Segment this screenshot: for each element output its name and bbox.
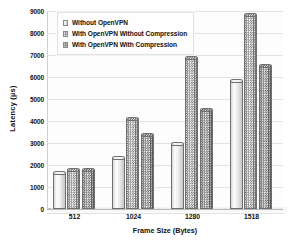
bar-top-cap [230,79,243,83]
y-tick-label: 3000 [16,140,44,147]
bar-top-cap [200,108,213,112]
y-tick-label: 5000 [16,96,44,103]
x-axis-title: Frame Size (Bytes) [47,226,283,235]
y-tick-label: 6000 [16,74,44,81]
bar-top-cap [53,171,66,175]
bar [185,58,198,209]
bar [244,15,257,209]
bar-top-cap [67,168,80,172]
bar-top-cap [141,133,154,137]
x-tick-label: 1280 [163,213,223,220]
bar-top-cap [185,56,198,60]
y-axis-tick-labels: 0100020003000400050006000700080009000 [16,0,44,248]
bar [126,119,139,209]
y-tick-label: 2000 [16,162,44,169]
y-tick-label: 7000 [16,52,44,59]
x-tick-label: 1024 [104,213,164,220]
bar [53,173,66,209]
legend-swatch-icon [63,42,68,48]
bar [67,170,80,209]
legend-item: Without OpenVPN [63,17,187,28]
legend-label: With OpenVPN Without Compression [72,30,187,37]
y-tick-label: 4000 [16,118,44,125]
x-tick-label: 1518 [222,213,282,220]
legend-label: Without OpenVPN [72,19,128,26]
chart-legend: Without OpenVPNWith OpenVPN Without Comp… [57,12,194,55]
legend-swatch-icon [63,31,68,37]
bar-top-cap [126,117,139,121]
y-tick-label: 1000 [16,184,44,191]
bar-top-cap [171,142,184,146]
legend-item: With OpenVPN With Compression [63,39,187,50]
legend-swatch-icon [63,20,68,26]
bar [259,66,272,209]
bar-top-cap [244,13,257,17]
y-tick-label: 9000 [16,8,44,15]
legend-item: With OpenVPN Without Compression [63,28,187,39]
bar [171,144,184,209]
bar [200,110,213,209]
y-tick-label: 0 [16,206,44,213]
y-tick-label: 8000 [16,30,44,37]
bar-top-cap [259,64,272,68]
bar [230,81,243,209]
gridline [47,209,283,210]
bar-top-cap [82,168,95,172]
x-axis-tick-labels: 512102412801518 [47,213,283,227]
bar [141,135,154,209]
bar-chart-figure: Latency (µs) 010002000300040005000600070… [0,0,289,248]
bar [112,158,125,209]
bar-top-cap [112,156,125,160]
x-tick-label: 512 [45,213,105,220]
legend-label: With OpenVPN With Compression [72,41,177,48]
bar-group [224,11,283,209]
bar [82,170,95,209]
